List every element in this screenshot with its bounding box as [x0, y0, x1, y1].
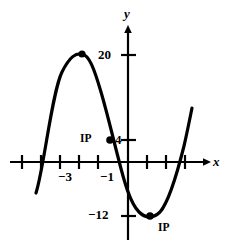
cubic-curve — [36, 54, 192, 217]
x-axis-arrow-icon — [203, 158, 211, 166]
x-tick-label-neg-3: −3 — [58, 170, 72, 183]
y-tick-label-4: 4 — [115, 133, 122, 146]
cubic-function-figure: y x 20 4 −12 −3 −1 IP IP — [0, 0, 226, 246]
x-axis-label: x — [213, 155, 220, 168]
y-axis-label: y — [124, 7, 130, 20]
upper-inflection-point-marker — [106, 136, 114, 144]
y-tick-label-20: 20 — [98, 48, 111, 61]
x-tick-label-neg-1: −1 — [100, 170, 114, 183]
plot-canvas — [0, 0, 226, 246]
lower-inflection-point-label: IP — [158, 222, 170, 234]
lower-inflection-point-marker — [146, 212, 154, 220]
upper-inflection-point-label: IP — [80, 133, 92, 145]
y-axis — [124, 25, 132, 240]
maximum-point-marker — [78, 50, 85, 57]
y-tick-label-neg-12: −12 — [88, 208, 108, 221]
y-axis-arrow-icon — [124, 25, 132, 33]
